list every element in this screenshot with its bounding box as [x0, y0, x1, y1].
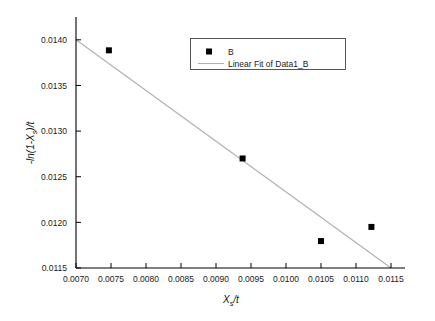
y-tick-label: 0.0135 — [41, 81, 67, 91]
data-point-marker — [106, 47, 112, 53]
y-tick-label: 0.0115 — [42, 263, 68, 273]
x-tick-label: 0.0095 — [238, 274, 264, 284]
y-tick-label: 0.0120 — [41, 218, 67, 228]
legend[interactable]: B Linear Fit of Data1_B — [191, 39, 346, 70]
y-tick-label: 0.0125 — [41, 172, 67, 182]
data-point-marker — [318, 238, 324, 244]
x-tick-label: 0.0080 — [133, 274, 159, 284]
x-tick-label: 0.0090 — [203, 274, 229, 284]
legend-entry-label-0: B — [228, 47, 234, 57]
y-axis-title-post: )/t — [25, 121, 36, 132]
data-point-marker — [368, 224, 374, 230]
x-tick-label: 0.0085 — [168, 274, 194, 284]
x-tick-label: 0.0075 — [98, 274, 124, 284]
scatter-plot-canvas: 0.00700.00750.00800.00850.00900.00950.01… — [0, 0, 435, 321]
chart-figure: 0.00700.00750.00800.00850.00900.00950.01… — [0, 0, 435, 321]
y-tick-label: 0.0140 — [41, 35, 67, 45]
legend-entry-label-1: Linear Fit of Data1_B — [228, 59, 309, 69]
data-point-marker — [240, 155, 246, 161]
y-tick-label: 0.0130 — [41, 126, 67, 136]
x-tick-label: 0.0105 — [308, 274, 334, 284]
x-tick-label: 0.0070 — [63, 274, 89, 284]
x-tick-label: 0.0100 — [273, 274, 299, 284]
legend-marker-square-icon — [206, 49, 212, 55]
x-tick-label: 0.0115 — [378, 274, 404, 284]
y-axis-title-pre: -ln(1-X — [25, 134, 36, 164]
x-tick-label: 0.0110 — [343, 274, 369, 284]
